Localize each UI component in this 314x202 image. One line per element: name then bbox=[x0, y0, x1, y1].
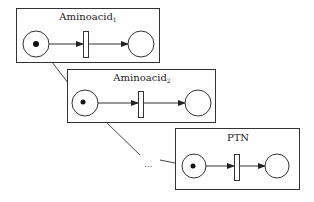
net-label: PTN bbox=[227, 132, 249, 143]
transition bbox=[139, 92, 144, 118]
net-label: Aminoacid1 bbox=[58, 11, 116, 23]
transition bbox=[84, 32, 89, 58]
output-place bbox=[128, 31, 154, 57]
transition bbox=[235, 155, 240, 181]
token bbox=[81, 100, 86, 105]
net-aminoacid-2: Aminoacid2 bbox=[68, 70, 216, 123]
net-label: Aminoacid2 bbox=[112, 72, 171, 84]
net-aminoacid-1: Aminoacid1 bbox=[17, 9, 160, 63]
output-place bbox=[265, 154, 289, 178]
ellipsis: ... bbox=[144, 159, 153, 169]
token bbox=[33, 41, 39, 47]
link-net2-to-ellipsis bbox=[106, 122, 140, 155]
petri-net-diagram: ... Aminoacid1 Aminoacid2 PTN bbox=[0, 0, 314, 202]
net-ptn: PTN bbox=[176, 129, 300, 190]
output-place bbox=[185, 90, 211, 116]
token bbox=[191, 164, 196, 169]
